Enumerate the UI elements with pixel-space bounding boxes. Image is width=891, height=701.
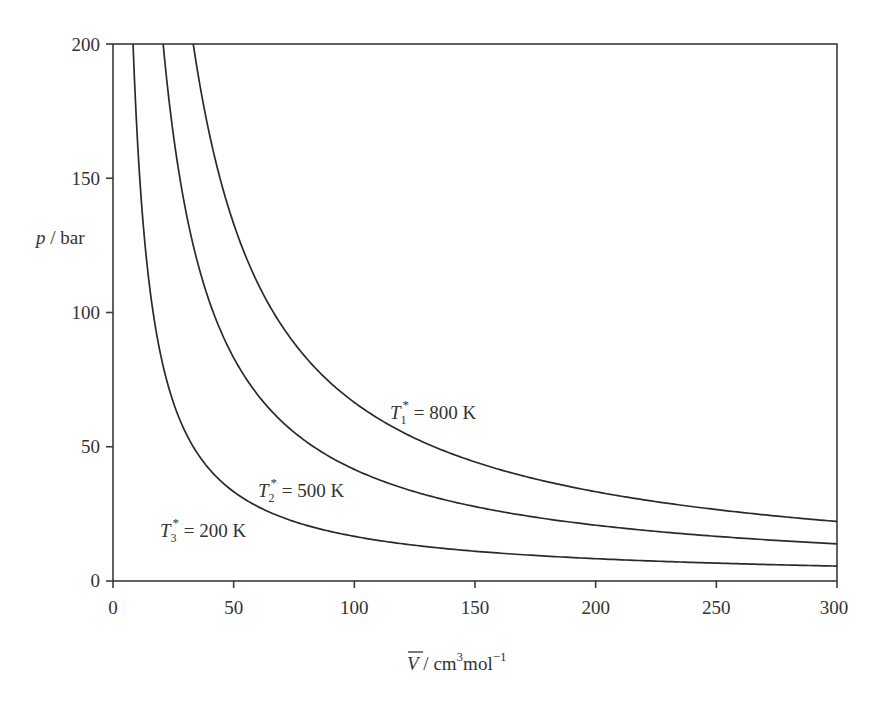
pv-isotherm-chart: 0 50 100 150 200 250 300 0 50 100 150 20… xyxy=(0,0,891,701)
y-tick-label: 200 xyxy=(72,34,101,55)
x-tick-label: 200 xyxy=(581,597,610,618)
x-tick-label: 300 xyxy=(820,597,849,618)
y-axis-ticks xyxy=(106,44,113,581)
x-axis-sup-neg1: −1 xyxy=(493,649,507,664)
x-axis-ticks xyxy=(113,581,837,588)
x-axis-label: V / cm3mol−1 xyxy=(407,649,507,674)
y-tick-label: 50 xyxy=(81,436,100,457)
label-800k: T1* = 800 K xyxy=(390,397,477,427)
y-axis-tick-labels: 0 50 100 150 200 xyxy=(72,34,101,591)
y-tick-label: 150 xyxy=(72,168,101,189)
y-tick-label: 0 xyxy=(91,570,101,591)
x-axis-tick-labels: 0 50 100 150 200 250 300 xyxy=(108,597,848,618)
x-tick-label: 0 xyxy=(108,597,118,618)
x-axis-unit-mol: mol xyxy=(463,653,493,674)
y-tick-label: 100 xyxy=(72,302,101,323)
x-tick-label: 50 xyxy=(224,597,243,618)
svg-text:V / cm3mol−1: V / cm3mol−1 xyxy=(407,649,507,674)
x-tick-label: 150 xyxy=(461,597,490,618)
label-200k: T3* = 200 K xyxy=(160,515,247,545)
label-500k: T2* = 500 K xyxy=(258,475,345,505)
y-axis-label: p / bar xyxy=(34,227,85,248)
y-axis-symbol: p xyxy=(34,227,46,248)
isotherm-200k-curve xyxy=(133,44,837,566)
y-axis-unit: / bar xyxy=(46,227,86,248)
x-axis-unit-part: / cm xyxy=(419,653,457,674)
isotherm-curves xyxy=(133,44,837,566)
svg-text:p / bar: p / bar xyxy=(34,227,85,248)
plot-frame xyxy=(113,44,837,581)
x-tick-label: 100 xyxy=(340,597,369,618)
x-tick-label: 250 xyxy=(702,597,731,618)
isotherm-800k-curve xyxy=(193,44,837,521)
